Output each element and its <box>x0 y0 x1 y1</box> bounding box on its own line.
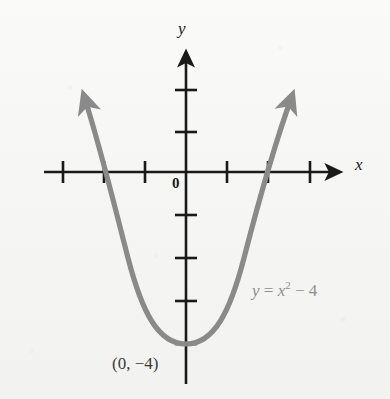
origin-label: 0 <box>172 176 180 191</box>
equation-constant: 4 <box>309 281 318 300</box>
vertex-point-label: (0, −4) <box>112 355 158 372</box>
parabola-figure <box>0 0 390 399</box>
x-axis <box>44 161 340 183</box>
equation-equals: = <box>264 281 274 300</box>
x-axis-label: x <box>355 156 363 173</box>
y-axis-label: y <box>178 20 186 37</box>
equation-label: y = x2 − 4 <box>252 282 317 299</box>
y-axis <box>175 52 197 384</box>
equation-lhs: y <box>252 281 260 300</box>
equation-minus: − <box>295 281 305 300</box>
